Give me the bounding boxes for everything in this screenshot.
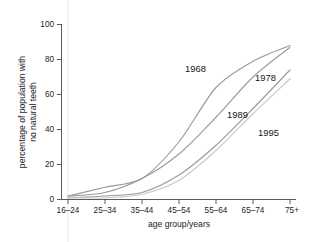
series-line-1968 — [68, 46, 290, 197]
series-line-1995 — [68, 79, 290, 198]
series-label-1978: 1978 — [255, 72, 276, 83]
series-line-1989 — [68, 70, 290, 198]
y-axis-title-line2: no natural teeth — [28, 82, 38, 142]
x-tick-label-2: 35–44 — [131, 206, 154, 215]
x-tick-label-5: 65–74 — [242, 206, 265, 215]
x-tick-label-3: 45–54 — [168, 206, 191, 215]
y-tick-label-60: 60 — [45, 90, 55, 99]
chart-figure: 0 20 40 60 80 100 16–24 25–34 35–44 45–5… — [0, 0, 314, 242]
y-tick-label-0: 0 — [49, 195, 54, 204]
y-axis-title-line1: percentage of population with — [17, 56, 27, 168]
series-line-1978 — [68, 47, 290, 196]
y-tick-label-100: 100 — [40, 20, 54, 29]
y-tick-label-80: 80 — [45, 55, 55, 64]
x-tick-label-0: 16–24 — [57, 206, 80, 215]
x-axis-title: age group/years — [148, 219, 210, 229]
y-tick-label-40: 40 — [45, 125, 55, 134]
x-tick-label-1: 25–34 — [94, 206, 117, 215]
series-label-1968: 1968 — [185, 63, 206, 74]
series-label-1989: 1989 — [227, 109, 248, 120]
line-chart: 0 20 40 60 80 100 16–24 25–34 35–44 45–5… — [0, 0, 314, 242]
series-label-1995: 1995 — [258, 127, 279, 138]
x-tick-label-4: 55–64 — [205, 206, 228, 215]
x-tick-label-6: 75+ — [285, 206, 299, 215]
y-tick-label-20: 20 — [45, 160, 55, 169]
